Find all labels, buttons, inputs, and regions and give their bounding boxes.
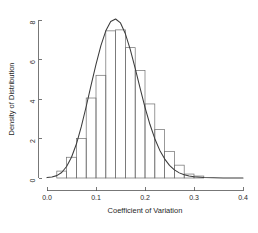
- y-axis-tick-label: 0: [29, 178, 36, 182]
- x-axis-title: Coefficient of Variation: [108, 206, 183, 215]
- y-axis-tick-label: 6: [29, 60, 36, 64]
- chart-canvas: 0.00.10.20.30.402468Coefficient of Varia…: [0, 0, 258, 233]
- x-axis-tick-label: 0.1: [91, 194, 101, 201]
- histogram-bar: [96, 75, 106, 178]
- x-axis-tick-label: 0.2: [140, 194, 150, 201]
- histogram-bar: [76, 139, 86, 179]
- histogram-bar: [116, 30, 126, 178]
- histogram-density-figure: 0.00.10.20.30.402468Coefficient of Varia…: [0, 0, 258, 233]
- histogram-bar: [145, 104, 155, 178]
- x-axis: 0.00.10.20.30.4: [42, 187, 248, 201]
- histogram-bar: [155, 130, 165, 178]
- histogram-bar: [86, 98, 96, 178]
- x-axis-tick-label: 0.3: [189, 194, 199, 201]
- y-axis: 02468: [29, 20, 43, 182]
- y-axis-title: Density of Distribution: [7, 63, 16, 136]
- histogram-bar: [67, 157, 77, 178]
- y-axis-tick-label: 8: [29, 20, 36, 24]
- y-axis-tick-label: 2: [29, 139, 36, 143]
- histogram-bars: [57, 30, 204, 178]
- y-axis-tick-label: 4: [29, 99, 36, 103]
- x-axis-tick-label: 0.0: [42, 194, 52, 201]
- histogram-bar: [125, 48, 135, 178]
- histogram-bar: [106, 31, 116, 178]
- histogram-bar: [174, 165, 184, 178]
- x-axis-tick-label: 0.4: [238, 194, 248, 201]
